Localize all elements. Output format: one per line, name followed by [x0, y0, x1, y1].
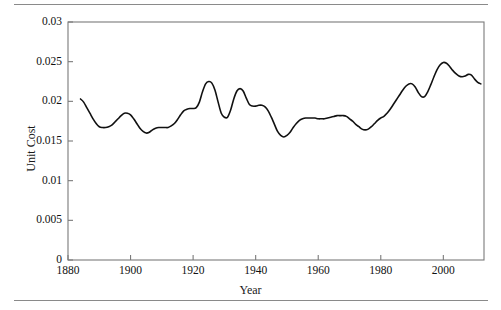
x-tick-label: 2000: [432, 265, 455, 277]
plot-area-border: [68, 22, 484, 260]
plot-frame: [68, 22, 484, 260]
figure-container: 00.0050.010.0150.020.0250.03 18801900192…: [0, 0, 501, 310]
y-axis-title: Unit Cost: [24, 104, 39, 194]
x-tick-label: 1920: [182, 265, 205, 277]
x-tick-label: 1940: [244, 265, 267, 277]
x-tick-label: 1980: [369, 265, 392, 277]
y-tick-label: 0.025: [6, 56, 62, 68]
x-tick-label: 1900: [119, 265, 142, 277]
x-axis-title: Year: [0, 283, 501, 298]
y-tick-label: 0: [6, 254, 62, 266]
x-tick-label: 1880: [57, 265, 80, 277]
y-tick-label: 0.03: [6, 16, 62, 28]
x-tick-label: 1960: [307, 265, 330, 277]
y-tick-label: 0.005: [6, 215, 62, 227]
